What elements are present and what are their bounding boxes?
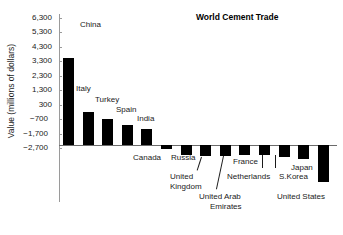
y-tickmark-4300: [59, 47, 62, 48]
y-tickmark-2300: [59, 76, 62, 77]
bar-china: [63, 58, 74, 145]
chart-canvas: World Cement Trade Value (millions of do…: [0, 0, 343, 235]
y-tick-5300: 5,300: [18, 28, 52, 36]
y-tick-neg700: −700: [14, 115, 48, 123]
bar-india: [141, 129, 152, 145]
y-tick-6300: 6,300: [18, 14, 52, 22]
bar-label-skorea: S.Korea: [279, 172, 308, 181]
y-tick-neg2700: −2,700: [14, 144, 48, 152]
y-tickmark-6300: [59, 18, 62, 19]
bar-label-turkey: Turkey: [95, 95, 119, 104]
bar-united-states: [318, 145, 329, 182]
bar-label-spain: Spain: [116, 105, 136, 114]
y-tickmark-neg2700: [59, 148, 62, 149]
bar-label-uae-line2: Emirates: [210, 202, 242, 211]
leader-line-netherlands: [262, 155, 263, 168]
y-tick-4300: 4,300: [18, 43, 52, 51]
y-tick-2300: 2,300: [18, 72, 52, 80]
bar-label-china: China: [80, 20, 101, 29]
y-tickmark-neg700: [59, 119, 62, 120]
bar-label-japan: Japan: [291, 163, 313, 172]
bar-united-arab-emirates: [220, 145, 231, 156]
leader-line-uae: [216, 156, 224, 189]
bar-label-united-kingdom-line1: United: [170, 172, 193, 181]
bar-netherlands: [259, 145, 270, 155]
y-tick-300: 300: [18, 101, 52, 109]
y-tick-neg1700: −1,700: [14, 130, 48, 138]
y-tickmark-neg1700: [59, 134, 62, 135]
bar-label-uae-line1: United Arab: [199, 192, 241, 201]
zero-baseline: [59, 145, 337, 146]
bar-s-korea: [279, 145, 290, 157]
bar-label-russia: Russia: [171, 153, 195, 162]
y-tickmark-300: [59, 105, 62, 106]
bar-italy: [83, 112, 94, 145]
y-tickmark-3300: [59, 61, 62, 62]
bar-united-kingdom: [200, 145, 211, 156]
y-tick-1300: 1,300: [18, 86, 52, 94]
y-tick-3300: 3,300: [18, 57, 52, 65]
bar-spain: [122, 125, 133, 145]
y-tickmark-5300: [59, 32, 62, 33]
bar-label-netherlands: Netherlands: [227, 172, 270, 181]
bar-label-india: India: [137, 114, 154, 123]
bar-label-italy: Italy: [76, 84, 91, 93]
y-axis-label: Value (millions of dollars): [6, 1, 16, 181]
bar-japan: [298, 145, 309, 159]
y-axis-line: [59, 14, 60, 202]
bar-canada: [161, 145, 172, 149]
y-tickmark-1300: [59, 90, 62, 91]
bar-turkey: [102, 119, 113, 145]
bar-label-united-states: United States: [277, 192, 325, 201]
bar-label-canada: Canada: [133, 153, 161, 162]
chart-title: World Cement Trade: [196, 12, 279, 22]
bar-label-france: France: [233, 157, 258, 166]
leader-line-skorea: [275, 155, 276, 168]
leader-line-united-kingdom: [197, 157, 202, 171]
bar-label-united-kingdom-line2: Kingdom: [170, 182, 202, 191]
bar-france: [239, 145, 250, 155]
